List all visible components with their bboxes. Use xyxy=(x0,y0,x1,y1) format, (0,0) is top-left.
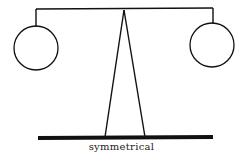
right-weight xyxy=(190,23,234,67)
left-weight xyxy=(14,26,58,70)
fulcrum-left-leg xyxy=(105,10,124,137)
balance-diagram: symmetrical xyxy=(0,0,243,164)
fulcrum-right-leg xyxy=(124,10,145,137)
base-bar xyxy=(38,137,213,138)
balance-scale-illustration xyxy=(0,0,243,164)
beam xyxy=(36,8,213,9)
caption: symmetrical xyxy=(0,141,243,152)
